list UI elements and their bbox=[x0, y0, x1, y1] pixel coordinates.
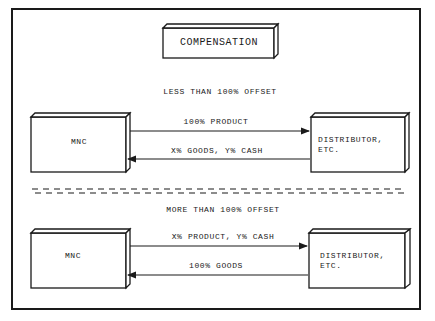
arrow-label-100-goods: 100% GOODS bbox=[189, 261, 243, 270]
mnc-label-upper: MNC bbox=[71, 137, 87, 146]
section-heading-less: LESS THAN 100% OFFSET bbox=[163, 87, 276, 96]
arrow-label-100-product: 100% PRODUCT bbox=[184, 117, 249, 126]
mnc-label-lower: MNC bbox=[65, 251, 81, 260]
diagram-graphics bbox=[0, 0, 435, 321]
diagram-title: COMPENSATION bbox=[180, 37, 258, 48]
arrow-label-product-cash: X% PRODUCT, Y% CASH bbox=[172, 232, 275, 241]
section-heading-more: MORE THAN 100% OFFSET bbox=[166, 205, 279, 214]
distributor-label-upper-1: DISTRIBUTOR, bbox=[318, 135, 383, 144]
distributor-label-upper-2: ETC. bbox=[318, 145, 340, 154]
distributor-label-lower-2: ETC. bbox=[320, 261, 342, 270]
distributor-label-lower-1: DISTRIBUTOR, bbox=[320, 251, 385, 260]
arrow-label-goods-cash: X% GOODS, Y% CASH bbox=[171, 146, 263, 155]
